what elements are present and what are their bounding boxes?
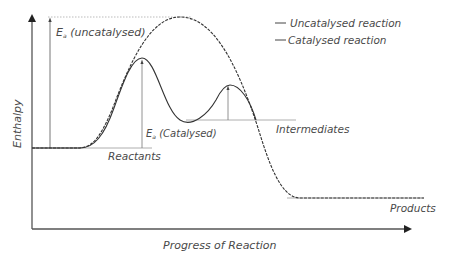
x-axis-label: Progress of Reaction bbox=[163, 239, 277, 252]
y-axis-label: Enthalpy bbox=[11, 99, 24, 148]
y-axis-arrow-icon bbox=[28, 14, 36, 22]
legend-catalysed-label: Catalysed reaction bbox=[288, 34, 386, 46]
ea-catalysed-label: Ea (Catalysed) bbox=[146, 128, 217, 140]
x-axis-arrow-icon bbox=[404, 225, 412, 233]
legend-uncatalysed-label: Uncatalysed reaction bbox=[290, 17, 401, 29]
ea-uncatalysed-arrowhead-icon bbox=[48, 18, 51, 23]
ea-catalysed-arrowhead-icon bbox=[141, 60, 144, 65]
reactants-label: Reactants bbox=[108, 150, 161, 162]
intermediates-label: Intermediates bbox=[276, 123, 350, 135]
products-label: Products bbox=[390, 202, 436, 214]
ea-uncatalysed-label: Ea (uncatalysed) bbox=[56, 26, 146, 39]
catalysed-curve bbox=[32, 58, 256, 148]
legend: Uncatalysed reaction Catalysed reaction bbox=[275, 17, 401, 46]
energy-profile-diagram: Ea (uncatalysed) Ea (Catalysed) Reactant… bbox=[0, 0, 453, 258]
